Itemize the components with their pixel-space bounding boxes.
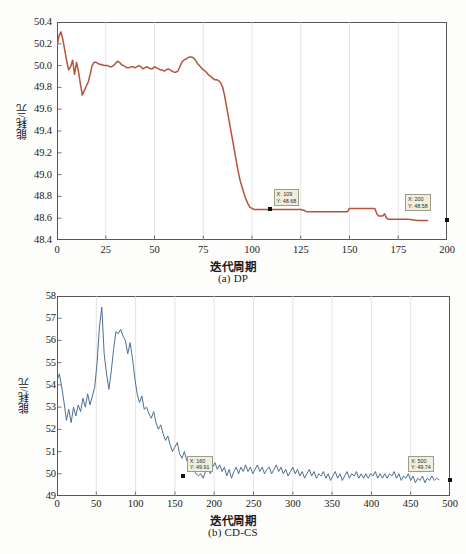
- x-tick-label: 75: [198, 244, 209, 255]
- x-tick-label: 500: [442, 498, 458, 509]
- series-canvas-b: [57, 296, 450, 496]
- x-tick-label: 450: [403, 498, 419, 509]
- y-tick-label: 48.8: [34, 191, 52, 201]
- data-tip-box: X: 200Y: 48.58: [405, 194, 431, 210]
- y-tick-label: 58: [46, 291, 56, 301]
- data-tip-box: X: 160Y: 49.91: [187, 456, 213, 472]
- caption-b: (b) CD-CS: [0, 526, 466, 538]
- series-canvas-a: [57, 22, 447, 240]
- y-tick-label: 49.6: [34, 104, 52, 114]
- plot-area-b: X: 160Y: 49.91X: 500Y: 49.74: [57, 296, 450, 496]
- x-tick-label: 250: [246, 498, 262, 509]
- x-tick-label: 50: [91, 498, 102, 509]
- x-tick-label: 100: [244, 244, 260, 255]
- data-tip-y: Y: 48.68: [277, 198, 297, 204]
- data-tip-y: Y: 48.58: [408, 203, 428, 209]
- x-tick-label: 300: [285, 498, 301, 509]
- x-tick-label: 0: [54, 498, 59, 509]
- x-tick-label: 350: [324, 498, 340, 509]
- y-tick-label: 49.4: [34, 126, 52, 136]
- data-tip-box: X: 109Y: 48.68: [274, 189, 300, 205]
- x-tick-label: 200: [439, 244, 455, 255]
- x-tick-label: 25: [101, 244, 112, 255]
- y-tick-label: 51: [46, 447, 56, 457]
- y-tick-label: 49.2: [34, 148, 52, 158]
- y-axis-title-a: 能耗/元: [14, 104, 30, 140]
- x-axis-ticks-a: 0255075100125150175200: [57, 244, 447, 258]
- figure-page: 48.448.648.849.049.249.449.649.850.050.2…: [0, 0, 466, 554]
- x-tick-label: 400: [364, 498, 380, 509]
- data-tip-box: X: 500Y: 49.74: [408, 456, 434, 472]
- x-tick-label: 0: [54, 244, 59, 255]
- x-tick-label: 50: [149, 244, 160, 255]
- y-tick-label: 55: [46, 358, 56, 368]
- y-tick-label: 49.8: [34, 82, 52, 92]
- x-tick-label: 150: [342, 244, 358, 255]
- y-axis-title-b: 能耗/元: [16, 378, 32, 414]
- data-series-line: [57, 307, 439, 483]
- data-point-marker: [181, 474, 185, 478]
- x-tick-label: 100: [128, 498, 144, 509]
- x-axis-ticks-b: 050100150200250300350400450500: [57, 498, 450, 512]
- x-tick-label: 200: [206, 498, 222, 509]
- x-tick-label: 175: [390, 244, 406, 255]
- data-point-marker: [448, 478, 452, 482]
- data-series-line: [57, 32, 428, 221]
- y-tick-label: 50.0: [34, 61, 52, 71]
- x-tick-label: 150: [167, 498, 183, 509]
- x-tick-label: 125: [293, 244, 309, 255]
- y-tick-label: 54: [46, 380, 56, 390]
- y-tick-label: 53: [46, 402, 56, 412]
- plot-area-a: X: 109Y: 48.68X: 200Y: 48.58: [57, 22, 447, 240]
- y-tick-label: 57: [46, 313, 56, 323]
- y-tick-label: 48.6: [34, 213, 52, 223]
- data-tip-y: Y: 49.91: [190, 464, 210, 470]
- y-tick-label: 48.4: [34, 235, 52, 245]
- y-tick-label: 49.0: [34, 170, 52, 180]
- y-tick-label: 56: [46, 335, 56, 345]
- y-tick-label: 52: [46, 424, 56, 434]
- y-tick-label: 50: [46, 469, 56, 479]
- y-tick-label: 50.4: [34, 17, 52, 27]
- data-point-marker: [445, 218, 449, 222]
- y-tick-label: 50.2: [34, 39, 52, 49]
- data-tip-y: Y: 49.74: [411, 464, 431, 470]
- data-point-marker: [268, 207, 272, 211]
- chart-panel-a: 48.448.648.849.049.249.449.649.850.050.2…: [0, 0, 466, 282]
